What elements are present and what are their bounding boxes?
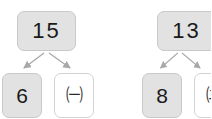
arrow-to-right-part	[49, 53, 70, 68]
arrow-to-right-part	[182, 53, 200, 68]
circled-giyeok-icon: ㈠	[66, 87, 83, 104]
part-node-blank[interactable]: ㈠	[54, 73, 94, 118]
whole-value: 13	[172, 20, 200, 42]
part-value-known: 8	[156, 85, 168, 106]
arrow-to-left-part	[161, 53, 178, 68]
part-node-blank[interactable]: ㈡	[194, 73, 211, 118]
circled-nieun-icon: ㈡	[206, 87, 212, 104]
whole-node: 13	[157, 11, 211, 51]
whole-value: 15	[32, 20, 60, 42]
number-bond-group-right: 13 8 ㈡	[140, 0, 211, 119]
worksheet-canvas: 15 6 ㈠ 13 8 ㈡	[0, 0, 211, 119]
part-value-known: 6	[16, 85, 28, 106]
part-node-known: 6	[2, 73, 42, 118]
whole-node: 15	[17, 11, 76, 51]
number-bond-group-left: 15 6 ㈠	[0, 0, 105, 119]
part-node-known: 8	[142, 73, 182, 118]
arrow-to-left-part	[24, 53, 44, 68]
